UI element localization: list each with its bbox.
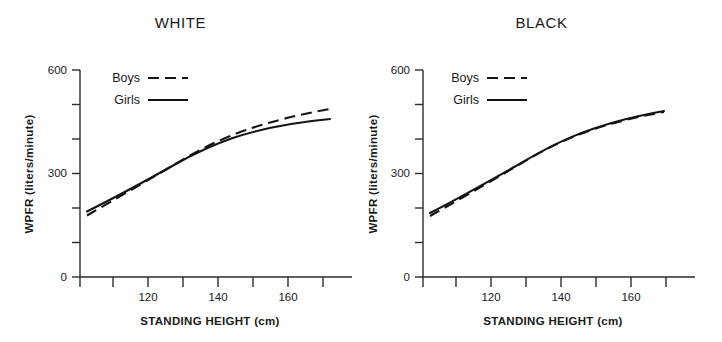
x-tick-label-160-white: 160	[278, 291, 297, 303]
panel-white: WHITE	[0, 0, 361, 342]
curve-boys-black	[430, 112, 664, 216]
y-tick-label-300-white: 300	[48, 167, 67, 179]
x-tick-label-120-black: 120	[481, 291, 500, 303]
y-tick-label-0-black: 0	[404, 271, 410, 283]
x-tick-label-160-black: 160	[621, 291, 640, 303]
x-tick-label-140-white: 140	[208, 291, 227, 303]
legend-black: Boys Girls	[451, 71, 527, 107]
curve-girls-white	[87, 119, 330, 212]
legend-white: Boys Girls	[112, 71, 188, 107]
y-tick-label-600-white: 600	[48, 64, 67, 76]
x-ticks-white	[80, 277, 323, 287]
y-axis-title-white: WPFR (liters/minute)	[23, 114, 35, 233]
legend-label-girls-black: Girls	[453, 93, 479, 107]
x-tick-label-120-white: 120	[138, 291, 157, 303]
curve-boys-white	[87, 109, 330, 216]
plot-area-white: 600 300 0 120 140 160 STANDING HEIGHT (c…	[0, 0, 361, 342]
figure-two-panel-chart: WHITE	[0, 0, 722, 342]
y-tick-label-600-black: 600	[391, 64, 410, 76]
legend-label-girls-white: Girls	[114, 93, 140, 107]
x-axis-title-black: STANDING HEIGHT (cm)	[483, 315, 622, 327]
x-ticks-black	[423, 277, 666, 287]
panel-black: BLACK 60	[361, 0, 722, 342]
legend-label-boys-white: Boys	[112, 71, 140, 85]
y-tick-label-300-black: 300	[391, 167, 410, 179]
x-axis-title-white: STANDING HEIGHT (cm)	[140, 315, 279, 327]
curve-girls-black	[430, 111, 664, 213]
y-ticks-white	[72, 70, 80, 277]
y-axis-title-black: WPFR (liters/minute)	[367, 114, 379, 233]
y-tick-label-0-white: 0	[61, 271, 67, 283]
x-tick-label-140-black: 140	[551, 291, 570, 303]
legend-label-boys-black: Boys	[451, 71, 479, 85]
y-ticks-black	[415, 70, 423, 277]
plot-area-black: 600 300 0 120 140 160 STANDING HEIGHT (c…	[361, 0, 722, 342]
